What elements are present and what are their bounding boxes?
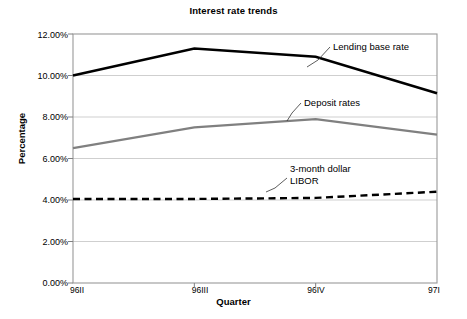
plot-area (0, 0, 467, 319)
chart-figure: Interest rate trends Percentage Quarter … (0, 0, 467, 319)
